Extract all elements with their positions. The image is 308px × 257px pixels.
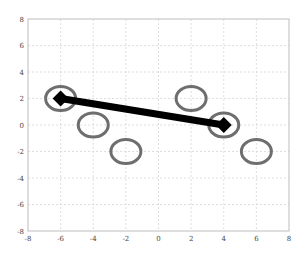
connecting-line xyxy=(61,99,224,126)
y-tick-label: 6 xyxy=(20,42,25,50)
x-tick-label: 4 xyxy=(222,235,227,243)
x-tick-label: -6 xyxy=(57,235,64,243)
y-tick-label: -4 xyxy=(17,175,24,183)
x-axis-ticks: -8-6-4-202468 xyxy=(25,235,292,243)
y-tick-label: -8 xyxy=(17,228,24,236)
y-tick-label: 2 xyxy=(20,95,24,103)
x-tick-label: -8 xyxy=(25,235,32,243)
x-tick-label: -4 xyxy=(90,235,97,243)
x-tick-label: 2 xyxy=(189,235,193,243)
scatter-chart: -8-6-4-202468 86420-2-4-6-8 xyxy=(0,0,308,257)
diamond-marker xyxy=(53,91,69,107)
y-tick-label: -6 xyxy=(17,201,24,209)
y-tick-label: -2 xyxy=(17,148,24,156)
y-tick-label: 8 xyxy=(20,16,24,24)
y-tick-label: 4 xyxy=(20,69,25,77)
x-tick-label: 8 xyxy=(287,235,291,243)
y-axis-ticks: 86420-2-4-6-8 xyxy=(17,16,24,236)
grid-lines xyxy=(28,19,289,231)
y-tick-label: 0 xyxy=(20,122,24,130)
x-tick-label: 0 xyxy=(156,235,160,243)
diamond-marker xyxy=(216,117,232,133)
x-tick-label: 6 xyxy=(254,235,259,243)
x-tick-label: -2 xyxy=(122,235,129,243)
